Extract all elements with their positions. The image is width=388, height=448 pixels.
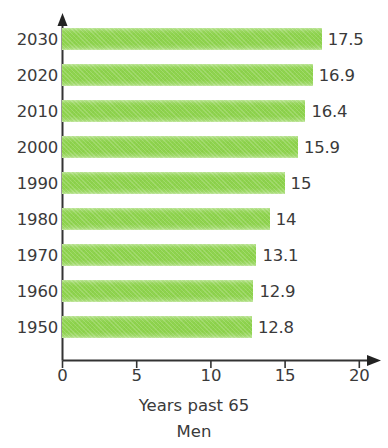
category-label: 1980 xyxy=(0,210,58,229)
bar-value-label: 13.1 xyxy=(262,246,298,265)
category-label: 2020 xyxy=(0,66,58,85)
bar-value-label: 17.5 xyxy=(328,30,364,49)
category-label: 1970 xyxy=(0,246,58,265)
category-label: 2030 xyxy=(0,30,58,49)
category-label: 1960 xyxy=(0,282,58,301)
bar-value-label: 16.4 xyxy=(311,102,347,121)
bar-chart: 2030 2020 2010 2000 1990 1980 1970 1960 … xyxy=(0,0,388,448)
bar-value-label: 15.9 xyxy=(304,138,340,157)
bar xyxy=(62,64,313,86)
x-tick-label: 20 xyxy=(349,366,370,385)
bar-value-label: 15 xyxy=(291,174,312,193)
bar xyxy=(62,280,253,302)
x-tick-label: 5 xyxy=(132,366,142,385)
bar-value-label: 12.8 xyxy=(258,318,294,337)
category-label: 1990 xyxy=(0,174,58,193)
category-label: 2010 xyxy=(0,102,58,121)
bar xyxy=(62,316,252,338)
bar-value-label: 14 xyxy=(276,210,297,229)
bar xyxy=(62,172,285,194)
x-axis-title: Years past 65 xyxy=(0,396,388,415)
bar-value-label: 12.9 xyxy=(259,282,295,301)
bar xyxy=(62,136,298,158)
plot-area: 2030 2020 2010 2000 1990 1980 1970 1960 … xyxy=(0,0,388,448)
x-tick-label: 0 xyxy=(57,366,67,385)
bar xyxy=(62,244,256,266)
category-label: 1950 xyxy=(0,318,58,337)
chart-subtitle: Men xyxy=(0,422,388,441)
x-tick-label: 15 xyxy=(275,366,296,385)
bar xyxy=(62,28,322,50)
x-tick-label: 10 xyxy=(201,366,222,385)
bar xyxy=(62,208,270,230)
bar xyxy=(62,100,305,122)
bar-value-label: 16.9 xyxy=(319,66,355,85)
category-label: 2000 xyxy=(0,138,58,157)
x-axis-tick-labels: 0 5 10 15 20 xyxy=(0,366,388,396)
